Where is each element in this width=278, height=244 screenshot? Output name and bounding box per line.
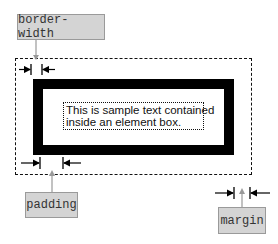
padding-dimension bbox=[21, 157, 81, 169]
margin-pointer-arrow bbox=[239, 188, 245, 207]
padding-pointer-arrow bbox=[49, 170, 55, 192]
dimension-arrows bbox=[0, 0, 278, 244]
border-width-dimension bbox=[19, 64, 55, 75]
border-width-pointer-arrow bbox=[33, 40, 39, 60]
